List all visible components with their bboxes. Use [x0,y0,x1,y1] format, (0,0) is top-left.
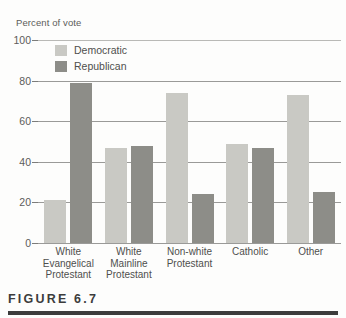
x-axis-label-line: White [38,246,99,258]
y-tick-label-80: 80 [19,75,31,87]
legend-item-republican: Republican [55,59,127,73]
x-axis-labels: WhiteEvangelicalProtestantWhiteMainlineP… [38,246,341,288]
x-axis-label-line: Non-white [159,246,220,258]
x-axis-label-line: Protestant [38,269,99,281]
bar-republican-4 [313,192,335,243]
bar-democratic-0 [44,200,66,243]
bar-republican-2 [192,194,214,243]
bar-democratic-3 [226,144,248,243]
bar-democratic-4 [287,95,309,243]
y-tick-label-100: 100 [13,34,31,46]
figure-container: Percent of vote 020406080100 DemocraticR… [0,0,346,318]
y-axis-title: Percent of vote [16,17,81,28]
bar-group [226,40,274,243]
x-axis-label-line: Evangelical [38,258,99,270]
legend-swatch-republican [55,61,67,72]
x-axis-label-1: WhiteMainlineProtestant [99,246,160,281]
x-axis-label-line: White [99,246,160,258]
bar-democratic-1 [105,148,127,243]
bar-group [287,40,335,243]
legend-label-democratic: Democratic [74,44,127,56]
y-tick-label-20: 20 [19,196,31,208]
x-axis-label-line: Catholic [220,246,281,258]
bar-republican-3 [252,148,274,243]
bar-group [166,40,214,243]
y-tick-label-60: 60 [19,115,31,127]
x-axis-label-0: WhiteEvangelicalProtestant [38,246,99,281]
y-tick-label-0: 0 [25,237,31,249]
x-axis-label-line: Mainline [99,258,160,270]
legend-item-democratic: Democratic [55,43,127,57]
x-axis-label-line: Protestant [159,258,220,270]
x-axis-label-line: Other [280,246,341,258]
caption-rule [8,311,338,315]
bar-republican-0 [70,83,92,243]
y-tick-label-40: 40 [19,156,31,168]
x-axis-label-line: Protestant [99,269,160,281]
bar-democratic-2 [166,93,188,243]
y-tick-mark-0 [32,243,38,244]
legend-label-republican: Republican [74,60,127,72]
legend-swatch-democratic [55,45,67,56]
gridline-0 [38,243,341,244]
x-axis-label-2: Non-whiteProtestant [159,246,220,269]
x-axis-label-4: Other [280,246,341,258]
bar-republican-1 [131,146,153,243]
x-axis-label-3: Catholic [220,246,281,258]
figure-caption: FIGURE 6.7 [8,292,98,306]
chart-legend: DemocraticRepublican [55,43,127,75]
